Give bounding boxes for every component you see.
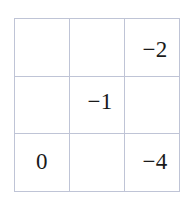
grid-cell-r3c1[interactable]: 0 xyxy=(15,134,70,192)
grid-cell-r3c2[interactable] xyxy=(70,134,125,192)
grid-row: −2 xyxy=(15,19,180,77)
grid-cell-r1c2[interactable] xyxy=(70,19,125,77)
grid-cell-r1c3[interactable]: −2 xyxy=(125,19,180,77)
grid-cell-value: −1 xyxy=(87,90,112,113)
grid-cell-value: 0 xyxy=(36,150,48,173)
grid-row: −1 xyxy=(15,77,180,135)
grid-cell-r1c1[interactable] xyxy=(15,19,70,77)
grid-cell-value: −4 xyxy=(142,150,167,173)
grid-cell-value: −2 xyxy=(142,38,167,61)
grid-cell-r2c1[interactable] xyxy=(15,77,70,135)
grid-cell-r2c3[interactable] xyxy=(125,77,180,135)
grid-row: 0 −4 xyxy=(15,134,180,192)
grid-cell-r2c2[interactable]: −1 xyxy=(70,77,125,135)
grid-cell-r3c3[interactable]: −4 xyxy=(125,134,180,192)
number-grid: −2 −1 0 −4 xyxy=(14,18,180,192)
